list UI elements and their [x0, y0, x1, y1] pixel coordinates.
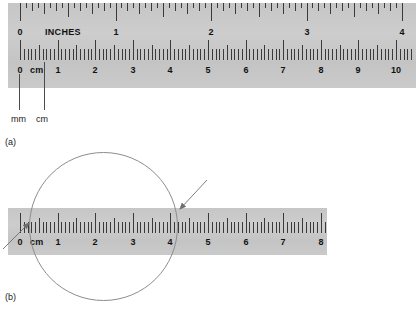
right-edge-arrow: [180, 180, 207, 209]
left-edge-arrow: [3, 223, 29, 249]
arrow-overlay: [0, 0, 416, 313]
ruler-figure: 01234 012345678910 INCHES cm mm cm (a) 0…: [0, 0, 416, 313]
panel-b-caption: (b): [5, 292, 16, 302]
